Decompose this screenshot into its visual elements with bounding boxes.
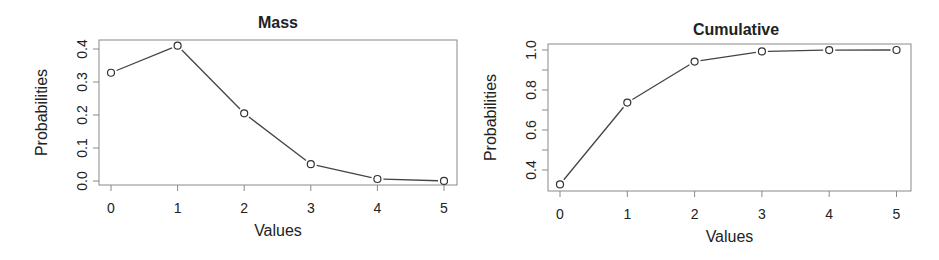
data-point-marker (691, 58, 698, 65)
series-line-segment (182, 50, 240, 109)
plot-frame (99, 40, 457, 185)
mass-chart-svg: Mass0.00.10.20.30.4Probabilities012345Va… (0, 0, 470, 260)
x-tick-label: 4 (374, 200, 382, 216)
data-point-marker (374, 176, 381, 183)
data-point-marker (307, 161, 314, 168)
x-tick-label: 3 (307, 200, 315, 216)
cumulative-chart: Cumulative0.40.60.81.0Probabilities01234… (470, 0, 939, 260)
y-tick-label: 1.0 (523, 40, 539, 60)
x-tick-label: 4 (825, 206, 833, 222)
chart-title: Mass (258, 14, 298, 31)
plot-frame (548, 44, 911, 191)
y-tick-label: 0.1 (74, 138, 90, 158)
y-axis: 0.00.10.20.30.4 (74, 39, 99, 191)
cumulative-chart-svg: Cumulative0.40.60.81.0Probabilities01234… (470, 0, 939, 260)
series-line-segment (317, 165, 372, 177)
y-axis-label: Probabilities (482, 74, 499, 161)
x-tick-label: 2 (691, 206, 699, 222)
data-series (108, 42, 448, 184)
y-tick-label: 0.0 (74, 171, 90, 191)
y-tick-label: 0.8 (523, 80, 539, 100)
y-tick-label: 0.3 (74, 72, 90, 92)
series-line-segment (249, 117, 306, 161)
series-line-segment (701, 52, 756, 60)
y-axis: 0.40.60.81.0 (523, 40, 548, 180)
data-point-marker (241, 110, 248, 117)
series-line-segment (632, 65, 689, 100)
data-series (557, 47, 901, 188)
mass-chart: Mass0.00.10.20.30.4Probabilities012345Va… (0, 0, 470, 260)
series-line-segment (768, 50, 823, 51)
data-point-marker (624, 99, 631, 106)
x-tick-label: 2 (240, 200, 248, 216)
series-line-segment (564, 107, 624, 180)
x-axis: 012345 (107, 185, 448, 216)
x-axis-label: Values (254, 222, 302, 239)
y-tick-label: 0.4 (523, 160, 539, 180)
y-tick-label: 0.2 (74, 105, 90, 125)
data-point-marker (174, 42, 181, 49)
x-tick-label: 5 (440, 200, 448, 216)
y-axis-label: Probabilities (33, 69, 50, 156)
x-tick-label: 3 (758, 206, 766, 222)
chart-title: Cumulative (693, 21, 779, 38)
y-tick-label: 0.4 (74, 39, 90, 59)
series-line-segment (383, 179, 438, 181)
x-tick-label: 0 (556, 206, 564, 222)
data-point-marker (557, 181, 564, 188)
x-tick-label: 5 (893, 206, 901, 222)
x-axis: 012345 (556, 191, 901, 222)
data-point-marker (758, 48, 765, 55)
y-tick-label: 0.6 (523, 120, 539, 140)
x-tick-label: 1 (623, 206, 631, 222)
series-line-segment (117, 48, 172, 71)
data-point-marker (441, 177, 448, 184)
x-tick-label: 1 (174, 200, 182, 216)
data-point-marker (108, 69, 115, 76)
data-point-marker (826, 47, 833, 54)
data-point-marker (893, 47, 900, 54)
x-axis-label: Values (706, 228, 754, 245)
x-tick-label: 0 (107, 200, 115, 216)
